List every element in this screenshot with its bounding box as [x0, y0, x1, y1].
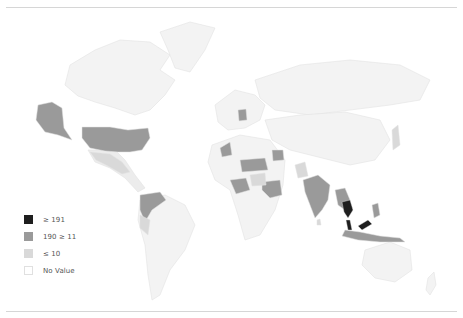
map-legend: ≥ 191 190 ≥ 11 ≤ 10 No Value: [24, 211, 76, 279]
legend-item-mid[interactable]: 190 ≥ 11: [24, 228, 76, 245]
legend-label: ≥ 191: [43, 216, 65, 224]
country-philippines[interactable]: [372, 203, 380, 218]
region-russia[interactable]: [255, 60, 430, 115]
country-malaysia-peninsula[interactable]: [346, 220, 352, 230]
country-pakistan[interactable]: [295, 162, 308, 178]
country-indonesia[interactable]: [342, 230, 405, 242]
country-alaska[interactable]: [36, 102, 72, 140]
country-sri-lanka[interactable]: [317, 219, 321, 225]
region-australia[interactable]: [362, 242, 412, 282]
region-canada[interactable]: [65, 40, 175, 115]
legend-label: 190 ≥ 11: [43, 233, 76, 241]
top-divider: [6, 7, 457, 8]
legend-label: ≤ 10: [43, 250, 60, 258]
country-sahel[interactable]: [250, 173, 266, 186]
country-malaysia-borneo[interactable]: [358, 220, 372, 230]
bottom-divider: [6, 311, 457, 312]
legend-item-low[interactable]: ≤ 10: [24, 245, 76, 262]
legend-swatch-no-value: [24, 266, 33, 275]
country-germany[interactable]: [238, 109, 247, 121]
country-united-states[interactable]: [82, 127, 150, 152]
legend-item-high[interactable]: ≥ 191: [24, 211, 76, 228]
country-algeria-libya[interactable]: [240, 158, 268, 172]
legend-label: No Value: [43, 267, 75, 275]
country-japan[interactable]: [392, 125, 400, 150]
legend-swatch-mid: [24, 232, 33, 241]
region-greenland[interactable]: [160, 22, 215, 72]
country-egypt[interactable]: [272, 150, 284, 161]
legend-swatch-high: [24, 215, 33, 224]
legend-swatch-low: [24, 249, 33, 258]
country-india[interactable]: [303, 175, 330, 218]
legend-item-no-value[interactable]: No Value: [24, 262, 76, 279]
region-new-zealand[interactable]: [426, 272, 436, 295]
country-thailand[interactable]: [342, 200, 353, 218]
